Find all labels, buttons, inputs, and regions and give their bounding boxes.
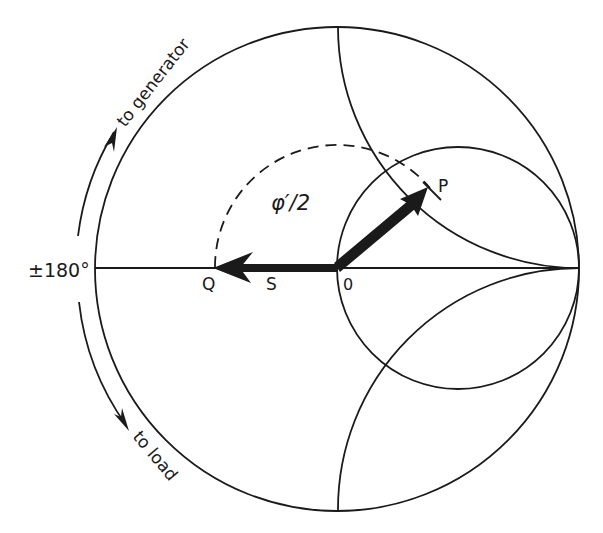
smith-chart-diagram: ±180° φ′/2 P Q S 0 to generator to load [0,0,603,533]
vector-op [334,187,428,272]
point-p-label: P [438,176,448,196]
angle-label: ±180° [28,259,90,281]
vector-oq-shaft [236,264,337,272]
to-load-label: to load [129,427,182,485]
smith-chart-svg: ±180° φ′/2 P Q S 0 to generator to load [0,0,603,533]
origin-label: 0 [343,275,353,294]
vector-op-shaft [334,200,415,272]
to-load-arc [79,302,126,425]
phase-label: φ′/2 [271,191,310,215]
point-q-label: Q [202,274,215,294]
to-generator-label: to generator [112,34,193,130]
to-generator-arc [78,132,114,236]
point-s-label: S [266,274,277,294]
to-generator-arrowhead-icon [104,127,117,152]
